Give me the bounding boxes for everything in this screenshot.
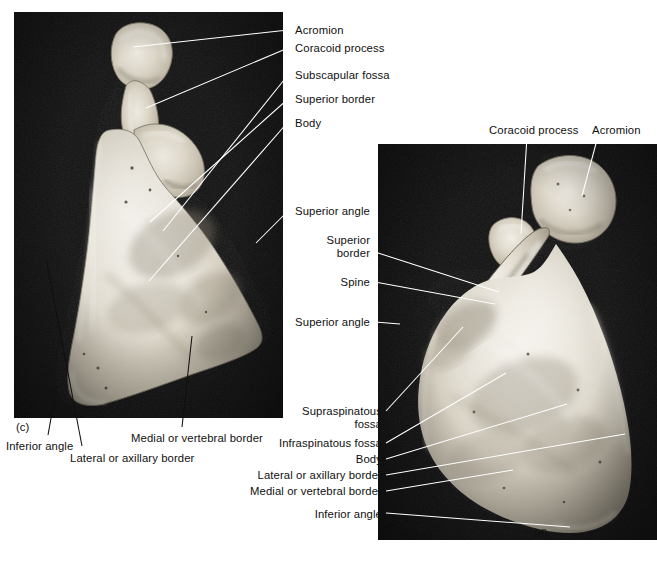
panel-id-d: (d) bbox=[534, 527, 548, 539]
anatomy-figure: (c)(d)AcromionCoracoid processSubscapula… bbox=[0, 0, 657, 565]
label-d-acromion: Acromion bbox=[592, 124, 641, 137]
label-c-superior-border: Superior border bbox=[295, 93, 375, 106]
label-d-inferior-angle: Inferior angle bbox=[315, 508, 382, 521]
label-d-lateral-or-axillary-border: Lateral or axillary border bbox=[258, 469, 382, 482]
label-d-coracoid-process: Coracoid process bbox=[489, 124, 579, 137]
label-c-inferior-angle: Inferior angle bbox=[6, 440, 73, 453]
photo-frame-anterior bbox=[14, 12, 283, 418]
panel-id-c: (c) bbox=[16, 421, 29, 433]
photo-frame-posterior bbox=[378, 144, 657, 540]
label-c-lateral-or-axillary-border: Lateral or axillary border bbox=[70, 452, 194, 465]
label-d-superior-border: Superior border bbox=[327, 234, 371, 259]
label-c-body: Body bbox=[295, 117, 321, 130]
scapula-photo-anterior bbox=[14, 12, 283, 418]
label-c-superior-angle: Superior angle bbox=[295, 205, 370, 218]
label-d-supraspinatous-fossa: Supraspinatous fossa bbox=[302, 405, 382, 430]
label-c-coracoid-process: Coracoid process bbox=[295, 42, 385, 55]
label-d-infraspinatous-fossa: Infraspinatous fossa bbox=[279, 437, 382, 450]
label-d-superior-angle: Superior angle bbox=[295, 316, 370, 329]
label-c-acromion: Acromion bbox=[295, 24, 344, 37]
label-d-medial-or-vertebral-border: Medial or vertebral border bbox=[250, 485, 382, 498]
scapula-photo-posterior bbox=[378, 144, 657, 540]
label-c-medial-or-vertebral-border: Medial or vertebral border bbox=[131, 432, 263, 445]
label-d-body: Body bbox=[356, 453, 382, 466]
label-d-spine: Spine bbox=[341, 276, 370, 289]
label-c-subscapular-fossa: Subscapular fossa bbox=[295, 69, 390, 82]
